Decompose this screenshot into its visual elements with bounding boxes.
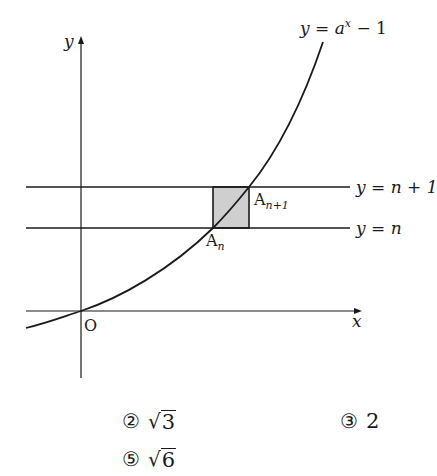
choice-marker: ⑤ bbox=[122, 447, 140, 471]
sqrt-expression: √3 bbox=[148, 409, 176, 433]
choice-3[interactable]: ③ 2 bbox=[340, 409, 379, 433]
choice-2[interactable]: ② √3 bbox=[122, 409, 176, 433]
sqrt-icon: √ bbox=[148, 447, 161, 471]
choice-marker: ② bbox=[122, 409, 140, 433]
sqrt-icon: √ bbox=[148, 409, 161, 433]
choice-marker: ③ bbox=[340, 409, 358, 433]
answer-choices: ② √3 ③ 2 ⑤ √6 bbox=[0, 0, 437, 476]
sqrt-expression: √6 bbox=[148, 447, 176, 471]
choice-5[interactable]: ⑤ √6 bbox=[122, 447, 176, 471]
choice-value: 2 bbox=[366, 409, 379, 433]
